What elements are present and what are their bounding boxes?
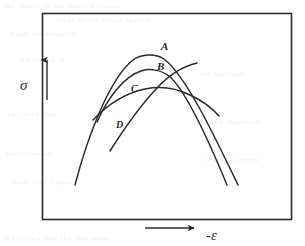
curve-d-path	[110, 63, 197, 151]
curve-b-label: B	[156, 60, 164, 72]
curve-d-label: D	[115, 119, 123, 130]
figure-drawing: A B C D σ -ε	[0, 0, 305, 246]
curve-c-path	[93, 88, 219, 120]
curve-c-label: C	[131, 83, 138, 94]
curve-a-label: A	[160, 40, 168, 52]
x-axis-label: -ε	[206, 227, 217, 243]
figure-container: the result of the applied stress level o…	[0, 0, 305, 246]
y-axis-label: σ	[20, 77, 28, 93]
curve-a-path	[75, 55, 238, 185]
